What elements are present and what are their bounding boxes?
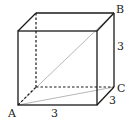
vertex-label-b: B [116, 3, 124, 16]
vertex-label-a: A [7, 107, 17, 120]
edge-top-left-depth [18, 13, 36, 31]
vertex-label-c: C [117, 82, 125, 95]
edge-label-front-bottom: 3 [51, 107, 58, 120]
edge-label-depth: 3 [109, 94, 116, 107]
cube-diagram: B 3 C 3 A 3 [0, 0, 133, 122]
edge-top-right-depth [97, 13, 114, 31]
edge-label-right-vertical: 3 [117, 40, 124, 53]
